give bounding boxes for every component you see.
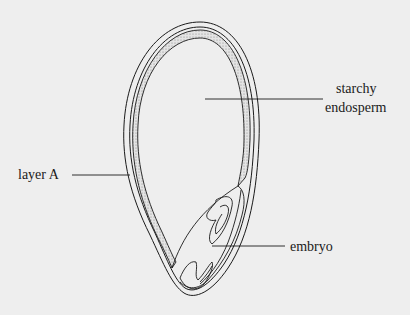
embryo-structure <box>172 186 244 289</box>
label-embryo: embryo <box>290 240 333 254</box>
label-starchy: starchy <box>336 82 376 96</box>
label-endosperm: endosperm <box>325 101 386 115</box>
layer-a-band <box>133 30 250 268</box>
label-layer-a: layer A <box>18 168 59 182</box>
grain-diagram <box>0 0 410 315</box>
